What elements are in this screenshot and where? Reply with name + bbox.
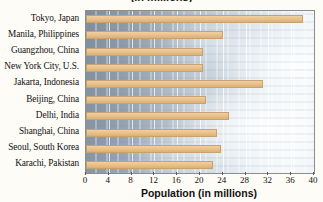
x-tick-label: 0 bbox=[73, 175, 97, 185]
bar-series bbox=[86, 11, 314, 173]
bar bbox=[86, 15, 303, 23]
x-axis-tick-labels: 0481216202428323640 bbox=[0, 175, 323, 187]
x-tick-label: 32 bbox=[255, 175, 279, 185]
x-tick-label: 36 bbox=[278, 175, 302, 185]
y-axis-label: Shanghai, China bbox=[19, 124, 79, 139]
bar bbox=[86, 48, 203, 56]
bar bbox=[86, 80, 263, 88]
population-bar-chart: (in millions) Tokyo, JapanManila, Philip… bbox=[0, 0, 323, 202]
bar bbox=[86, 161, 213, 169]
gridline bbox=[314, 11, 315, 173]
bar bbox=[86, 145, 221, 153]
y-axis-label: Manila, Philippines bbox=[8, 27, 79, 42]
bar bbox=[86, 129, 217, 137]
y-axis-label: Karachi, Pakistan bbox=[15, 156, 79, 171]
y-axis-label: Jakarta, Indonesia bbox=[14, 75, 79, 90]
y-axis-label: Guangzhou, China bbox=[11, 43, 79, 58]
y-axis-label: Beijing, China bbox=[26, 92, 79, 107]
x-tick-label: 24 bbox=[210, 175, 234, 185]
bar bbox=[86, 112, 229, 120]
x-axis-title: Population (in millions) bbox=[85, 187, 313, 199]
bar bbox=[86, 31, 223, 39]
x-tick-label: 16 bbox=[164, 175, 188, 185]
x-tick-label: 20 bbox=[187, 175, 211, 185]
plot-area bbox=[85, 10, 315, 174]
y-axis-label: New York City, U.S. bbox=[4, 59, 79, 74]
bar bbox=[86, 96, 206, 104]
bar bbox=[86, 64, 203, 72]
x-tick-label: 8 bbox=[119, 175, 143, 185]
y-axis-label: Delhi, India bbox=[36, 108, 79, 123]
x-tick-label: 12 bbox=[141, 175, 165, 185]
x-tick-label: 28 bbox=[233, 175, 257, 185]
x-tick-label: 40 bbox=[301, 175, 323, 185]
y-axis-label: Seoul, South Korea bbox=[8, 140, 79, 155]
chart-title: (in millions) bbox=[0, 0, 323, 2]
x-tick-label: 4 bbox=[96, 175, 120, 185]
y-axis-category-labels: Tokyo, JapanManila, PhilippinesGuangzhou… bbox=[0, 10, 82, 172]
y-axis-label: Tokyo, Japan bbox=[31, 11, 79, 26]
